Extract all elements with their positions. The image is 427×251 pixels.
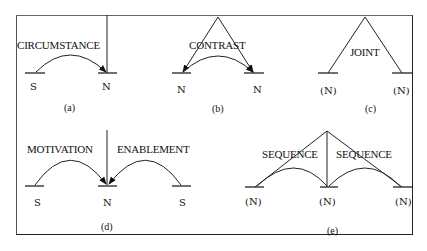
node-label-a-0: S — [30, 81, 37, 92]
arc-arrow-d-left — [35, 160, 106, 185]
arc-arrow-a — [36, 55, 106, 72]
caption-b: (b) — [212, 103, 224, 115]
relation-label-d-right: ENABLEMENT — [117, 143, 190, 155]
rst-schemas-diagram: CIRCUMSTANCE S N (a) CONTRAST N N (b) JO… — [0, 0, 427, 251]
node-label-d-2: S — [179, 197, 186, 208]
caption-c: (c) — [365, 103, 376, 115]
caption-e: (e) — [327, 225, 338, 237]
node-label-d-0: S — [34, 197, 41, 208]
node-label-b-0: N — [177, 84, 186, 95]
relation-label-b: CONTRAST — [189, 39, 246, 51]
relation-label-d-left: MOTIVATION — [27, 143, 93, 155]
panel-b: CONTRAST N N (b) — [172, 17, 264, 115]
arc-e-right — [329, 168, 400, 186]
arc-arrow-d-right — [109, 160, 181, 185]
arc-arrow-b — [183, 56, 253, 72]
panel-c: JOINT (N) (N) (c) — [318, 17, 412, 115]
tri-left-c — [328, 17, 365, 73]
node-label-c-0: (N) — [320, 85, 337, 96]
node-label-c-1: (N) — [393, 85, 410, 96]
tri-right-c — [365, 17, 402, 73]
relation-label-a: CIRCUMSTANCE — [17, 39, 100, 51]
relation-label-e-left: SEQUENCE — [262, 148, 318, 160]
node-label-e-2: (N) — [395, 196, 412, 207]
node-label-b-1: N — [253, 84, 262, 95]
node-label-e-1: (N) — [319, 196, 336, 207]
relation-label-e-right: SEQUENCE — [336, 148, 392, 160]
caption-a: (a) — [64, 102, 75, 114]
node-label-d-1: N — [103, 197, 112, 208]
caption-d: (d) — [101, 221, 113, 233]
panel-e: SEQUENCE SEQUENCE (N) (N) (N) (e) — [245, 131, 412, 237]
arc-e-left — [257, 168, 327, 186]
relation-label-c: JOINT — [350, 46, 380, 58]
panel-d: MOTIVATION ENABLEMENT S N S (d) — [25, 130, 191, 233]
panel-a: CIRCUMSTANCE S N (a) — [17, 15, 117, 114]
node-label-a-1: N — [102, 81, 111, 92]
node-label-e-0: (N) — [245, 196, 262, 207]
